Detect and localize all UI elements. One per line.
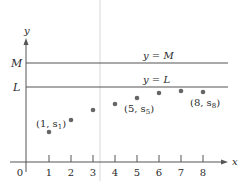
x-ticks bbox=[49, 155, 203, 162]
M-label: M bbox=[10, 57, 23, 70]
x-tick-label: 2 bbox=[68, 167, 74, 178]
line-M-label: y = M bbox=[142, 50, 174, 61]
point-2 bbox=[69, 118, 74, 123]
point-3 bbox=[91, 108, 96, 113]
x-tick-label: 6 bbox=[156, 167, 162, 178]
line-L-label: y = L bbox=[142, 74, 170, 85]
annotation-point-8: (8, s8) bbox=[190, 97, 220, 110]
x-tick-label: 1 bbox=[46, 167, 52, 178]
point-4 bbox=[113, 102, 118, 107]
annotation-point-5: (5, s5) bbox=[124, 103, 154, 116]
sequence-chart: y x M L y = M y = L 0 1 2 3 4 5 6 7 8 bbox=[0, 0, 245, 181]
x-axis-label: x bbox=[232, 156, 238, 167]
y-axis-label: y bbox=[23, 25, 30, 36]
x-tick-label: 4 bbox=[112, 167, 118, 178]
x-tick-label: 7 bbox=[178, 167, 184, 178]
annotation-point-1: (1, s1) bbox=[36, 118, 66, 131]
x-axis-arrow-icon bbox=[221, 160, 228, 165]
point-1 bbox=[47, 130, 52, 135]
point-7 bbox=[179, 89, 184, 94]
point-8 bbox=[201, 90, 206, 95]
point-5 bbox=[135, 96, 140, 101]
y-axis-arrow-icon bbox=[24, 38, 29, 45]
L-label: L bbox=[12, 81, 20, 94]
x-tick-label: 8 bbox=[200, 167, 206, 178]
x-tick-label: 5 bbox=[134, 167, 140, 178]
x-tick-label: 3 bbox=[90, 167, 96, 178]
origin-label: 0 bbox=[17, 167, 23, 178]
point-6 bbox=[157, 91, 162, 96]
